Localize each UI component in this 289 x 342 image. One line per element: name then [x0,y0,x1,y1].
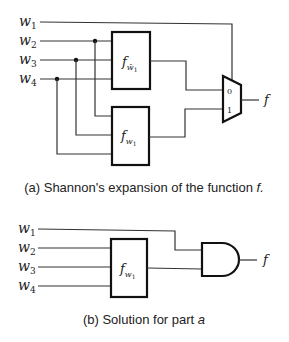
diagram-canvas: w1 w2 w3 w4 fw̄1 fw1 0 1 f (a) Shannon [0,0,289,342]
output-label-f: f [262,252,270,267]
caption-b: (b) Solution for part a [83,312,205,327]
output-label-f: f [263,92,271,107]
circuit-svg: w1 w2 w3 w4 fw̄1 fw1 0 1 f (a) Shannon [0,0,289,342]
diagram-a: w1 w2 w3 w4 fw̄1 fw1 0 1 f (a) Shannon [19,13,271,195]
mux-input-1-label: 1 [227,106,232,115]
input-label-w4: w4 [18,277,36,295]
input-label-w4: w4 [19,70,37,88]
input-label-w2: w2 [19,32,37,50]
input-label-w1: w1 [19,13,37,31]
block-f-wbar1 [112,32,150,89]
wire-block-to-and [147,268,202,269]
and-gate [202,243,239,276]
input-label-w3: w3 [19,51,37,69]
caption-a: (a) Shannon's expansion of the function … [24,180,264,195]
input-label-w2: w2 [18,239,36,257]
block-f-w1 [112,107,149,165]
multiplexer [223,76,241,122]
wire-w3-tap [76,60,112,135]
mux-input-0-label: 0 [227,87,232,96]
diagram-b: w1 w2 w3 w4 fw1 f (b) Solution for part … [18,220,270,327]
wire-bottom-to-mux1 [149,109,223,137]
input-label-w3: w3 [18,258,36,276]
input-label-w1: w1 [18,220,36,238]
wire-top-to-mux0 [150,61,223,90]
block-f-w1 [111,239,147,297]
